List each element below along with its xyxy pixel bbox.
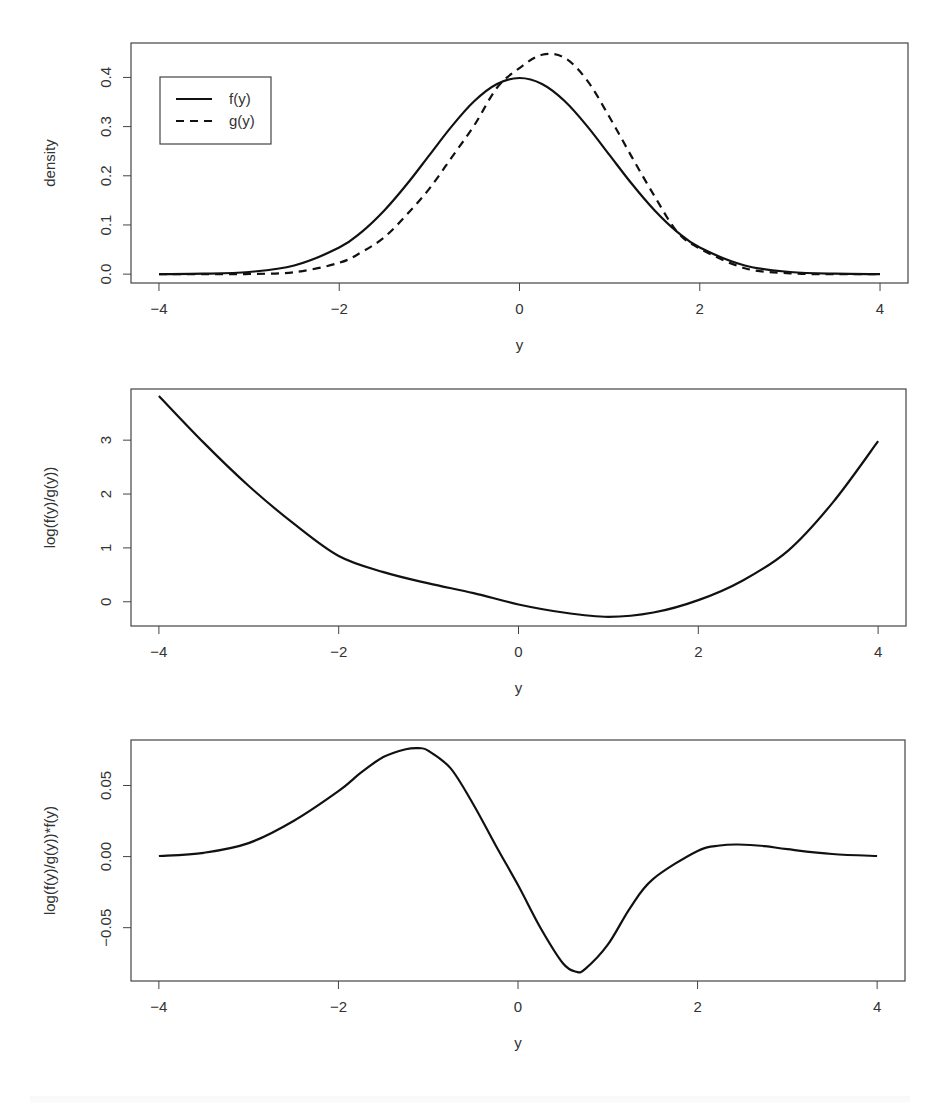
y-axis-label: log(f(y)/g(y))*f(y): [41, 806, 58, 915]
y-tick-label: 0.1: [97, 215, 114, 236]
x-tick-label: 4: [874, 643, 882, 660]
x-tick-label: −4: [150, 998, 167, 1015]
x-tick-label: 0: [514, 998, 522, 1015]
x-tick-label: 2: [694, 643, 702, 660]
y-tick-label: 0.3: [97, 116, 114, 137]
y-tick-label: 2: [97, 490, 114, 498]
y-tick-label: 0.05: [97, 771, 114, 800]
x-tick-label: −2: [330, 643, 347, 660]
y-tick-label: −0.05: [97, 909, 114, 947]
plot-frame: [131, 389, 906, 626]
figure: −4−20240.00.10.20.30.4ydensityf(y)g(y) −…: [0, 0, 946, 1103]
legend-label: f(y): [229, 90, 251, 107]
x-axis-label: y: [514, 1034, 522, 1051]
x-axis-label: y: [515, 679, 523, 696]
y-tick-label: 0: [97, 598, 114, 606]
legend: f(y)g(y): [160, 77, 271, 144]
x-tick-label: 2: [696, 300, 704, 317]
y-axis-label: density: [41, 139, 58, 187]
weighted-log-ratio-panel: −4−2024−0.050.000.05ylog(f(y)/g(y))*f(y): [41, 740, 905, 1051]
x-tick-label: −4: [150, 300, 167, 317]
y-tick-label: 3: [97, 436, 114, 444]
density-panel: −4−20240.00.10.20.30.4ydensityf(y)g(y): [41, 43, 908, 353]
x-tick-label: 0: [515, 300, 523, 317]
x-tick-label: 4: [873, 998, 881, 1015]
clipped-caption: [30, 1096, 910, 1103]
x-tick-label: 2: [693, 998, 701, 1015]
x-tick-label: −2: [330, 998, 347, 1015]
x-tick-label: −4: [150, 643, 167, 660]
legend-box: [160, 77, 271, 144]
y-tick-label: 0.4: [97, 67, 114, 88]
x-tick-label: −2: [331, 300, 348, 317]
series-line-log-f-y-g-y-f-y-: [159, 748, 877, 972]
x-tick-label: 4: [876, 300, 884, 317]
y-tick-label: 0.2: [97, 165, 114, 186]
y-tick-label: 1: [97, 544, 114, 552]
y-tick-label: 0.00: [97, 842, 114, 871]
log-ratio-panel: −4−20240123ylog(f(y)/g(y)): [41, 389, 906, 696]
y-axis-label: log(f(y)/g(y)): [41, 467, 58, 549]
x-tick-label: 0: [514, 643, 522, 660]
x-axis-label: y: [516, 336, 524, 353]
y-tick-label: 0.0: [97, 264, 114, 285]
legend-label: g(y): [229, 112, 255, 129]
series-line-log-f-y-g-y-: [159, 396, 878, 617]
plot-frame: [131, 740, 905, 981]
